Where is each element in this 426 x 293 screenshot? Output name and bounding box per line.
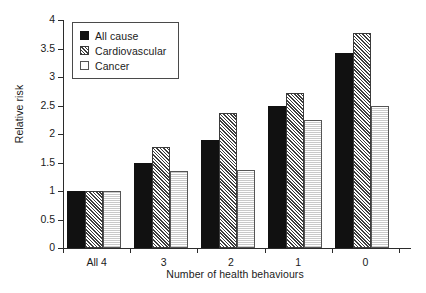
legend-swatch-icon [80, 31, 89, 40]
chart-legend: All causeCardiovascularCancer [72, 22, 179, 79]
y-tick-mark [58, 220, 63, 221]
legend-item: Cardiovascular [80, 43, 166, 58]
bar-cancer [304, 120, 322, 248]
y-tick-mark [58, 134, 63, 135]
y-tick-mark [58, 77, 63, 78]
y-tick-label: 3 [49, 70, 55, 82]
y-axis-label: Relative risk [13, 59, 25, 169]
x-tick-mark [399, 248, 400, 253]
y-tick-mark [58, 106, 63, 107]
legend-label: Cardiovascular [95, 45, 166, 57]
y-tick-label: 0 [49, 241, 55, 253]
bar-allcause [201, 140, 219, 248]
bar-cardio [85, 191, 103, 248]
legend-label: Cancer [95, 60, 129, 72]
y-tick-mark [58, 191, 63, 192]
x-tick-mark [332, 248, 333, 253]
bar-cardio [152, 147, 170, 248]
legend-swatch-icon [80, 61, 89, 70]
y-tick-mark [58, 49, 63, 50]
x-axis-label: Number of health behaviours [60, 268, 410, 280]
y-tick-label: 2 [49, 127, 55, 139]
bar-allcause [134, 163, 152, 249]
y-tick-label: 3.5 [40, 42, 55, 54]
y-tick-label: 1.5 [40, 156, 55, 168]
x-tick-mark [197, 248, 198, 253]
y-tick-label: 2.5 [40, 99, 55, 111]
bar-cancer [371, 106, 389, 249]
y-tick-mark [58, 163, 63, 164]
bar-allcause [67, 191, 85, 248]
bar-allcause [268, 106, 286, 249]
x-tick-mark [130, 248, 131, 253]
bar-cardio [286, 93, 304, 248]
bar-cardio [219, 113, 237, 248]
y-axis-line [63, 20, 64, 248]
y-tick-label: 4 [49, 13, 55, 25]
relative-risk-bar-chart: Relative risk 00.511.522.533.54 All 4321… [0, 0, 426, 293]
bar-allcause [335, 53, 353, 248]
y-tick-label: 1 [49, 184, 55, 196]
y-tick-label: 0.5 [40, 213, 55, 225]
x-tick-mark [265, 248, 266, 253]
x-axis-line [63, 248, 411, 249]
x-tick-mark [63, 248, 64, 253]
legend-swatch-icon [80, 46, 89, 55]
x-category-label: 0 [325, 256, 405, 268]
bar-cardio [353, 33, 371, 248]
bar-cancer [170, 171, 188, 248]
legend-item: Cancer [80, 58, 166, 73]
legend-label: All cause [95, 30, 139, 42]
bar-cancer [103, 191, 121, 248]
bar-cancer [237, 170, 255, 248]
y-tick-mark [58, 20, 63, 21]
legend-item: All cause [80, 28, 166, 43]
